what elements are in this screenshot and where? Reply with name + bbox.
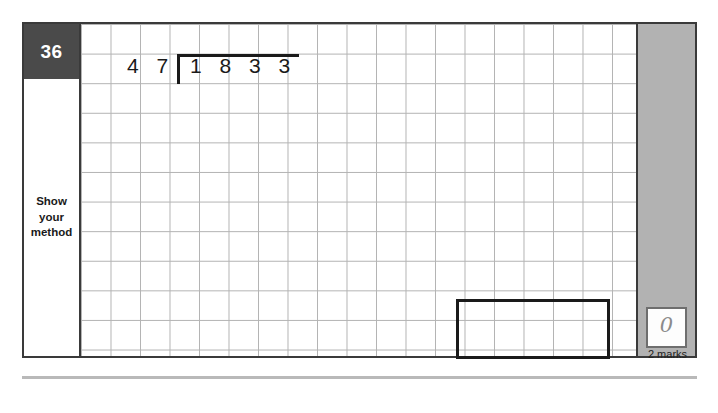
exam-question-page: 36 Show your method 4 7 1 8 3 3 0 2 mark… — [0, 0, 718, 413]
marks-awarded-value: 0 — [648, 313, 685, 338]
answer-box[interactable] — [456, 299, 610, 359]
show-method-column: Show your method — [24, 79, 81, 356]
marks-column: 0 2 marks — [636, 24, 695, 356]
divisor-digit-2: 7 — [148, 55, 178, 76]
marks-awarded-box[interactable]: 0 — [646, 307, 687, 348]
show-method-label: Show your method — [31, 194, 73, 241]
long-division-sum: 4 7 1 8 3 3 — [81, 24, 381, 84]
question-number-badge: 36 — [24, 24, 79, 79]
page-bottom-rule — [22, 376, 697, 379]
division-bracket-vertical-icon — [177, 54, 180, 84]
dividend-digit-3: 3 — [240, 55, 270, 76]
marks-total-label: 2 marks — [638, 348, 697, 360]
dividend-digit-1: 1 — [181, 55, 211, 76]
divisor-digit-1: 4 — [118, 55, 148, 76]
question-frame: 36 Show your method 4 7 1 8 3 3 0 2 mark… — [22, 22, 697, 358]
dividend-digit-4: 3 — [270, 55, 300, 76]
dividend-digit-2: 8 — [211, 55, 241, 76]
